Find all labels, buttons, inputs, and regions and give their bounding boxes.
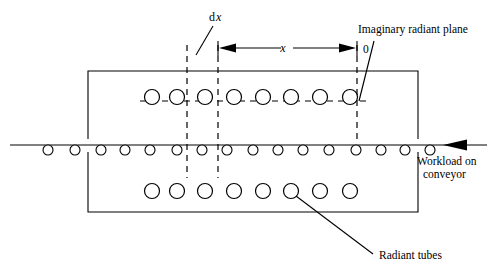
conveyor-direction-arrow-icon bbox=[443, 140, 467, 151]
x-dimension bbox=[218, 41, 357, 56]
radiant-tube bbox=[256, 90, 271, 105]
diagram-canvas: d x x 0 Imaginary radiant plane Workload… bbox=[0, 0, 497, 280]
workload-item bbox=[298, 145, 308, 155]
workload-item bbox=[351, 145, 361, 155]
workload-item bbox=[400, 145, 410, 155]
radiant-tube bbox=[227, 184, 242, 199]
workload-label-line1: Workload on bbox=[417, 155, 477, 167]
furnace-upper-enclosure bbox=[88, 71, 418, 139]
x-dimension-right-arrow-icon bbox=[339, 44, 356, 53]
radiant-tube bbox=[343, 90, 358, 105]
radiant-tube bbox=[198, 184, 213, 199]
dx-leader-line bbox=[196, 26, 213, 55]
workload-item bbox=[222, 145, 232, 155]
radiant-tube bbox=[284, 90, 299, 105]
radiant-tubes-label: Radiant tubes bbox=[379, 249, 442, 261]
workload-item bbox=[425, 145, 435, 155]
radiant-tube bbox=[145, 184, 160, 199]
radiant-tube bbox=[170, 184, 185, 199]
radiant-tubes-leader-line bbox=[296, 196, 373, 254]
radiant-tube bbox=[313, 90, 328, 105]
furnace-lower-enclosure bbox=[88, 152, 418, 212]
workload-item bbox=[248, 145, 258, 155]
workload-item bbox=[96, 145, 106, 155]
workload-item bbox=[43, 145, 53, 155]
workload-item bbox=[172, 145, 182, 155]
workload-item bbox=[197, 145, 207, 155]
radiant-tube bbox=[227, 90, 242, 105]
radiant-tube-furnace-diagram: d x x 0 Imaginary radiant plane Workload… bbox=[0, 0, 497, 280]
x-dimension-left-arrow-icon bbox=[219, 44, 236, 53]
workload-item bbox=[120, 145, 130, 155]
radiant-tube bbox=[198, 90, 213, 105]
workload-item bbox=[324, 145, 334, 155]
x-dimension-label: x bbox=[279, 41, 286, 55]
radiant-tube bbox=[313, 184, 328, 199]
workload-items bbox=[43, 145, 435, 155]
radiant-tube bbox=[343, 184, 358, 199]
dx-label-d: d bbox=[209, 10, 215, 24]
bottom-radiant-tube-row bbox=[145, 184, 358, 199]
radiant-tube bbox=[145, 90, 160, 105]
workload-item bbox=[273, 145, 283, 155]
dx-label-x: x bbox=[215, 10, 222, 24]
workload-item bbox=[145, 145, 155, 155]
top-radiant-tube-row bbox=[145, 90, 358, 105]
origin-label: 0 bbox=[363, 43, 369, 55]
radiant-tube bbox=[170, 90, 185, 105]
radiant-tube bbox=[256, 184, 271, 199]
workload-item bbox=[70, 145, 80, 155]
imaginary-radiant-plane-label: Imaginary radiant plane bbox=[358, 23, 468, 36]
workload-item bbox=[376, 145, 386, 155]
workload-label-line2: conveyor bbox=[423, 168, 466, 181]
